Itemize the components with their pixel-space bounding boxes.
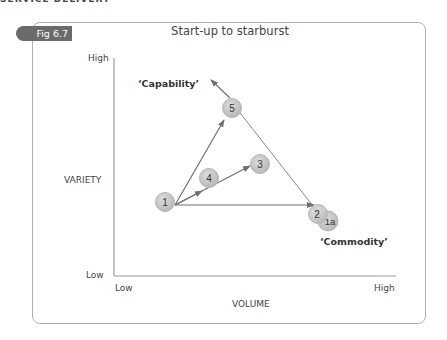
svg-text:4: 4 [206, 173, 212, 184]
y-axis-high-label: High [88, 53, 109, 63]
commodity-annotation: ‘Commodity’ [320, 236, 388, 247]
node-3: 3 [251, 155, 270, 174]
node-5: 5 [223, 99, 242, 118]
y-axis-title: VARIETY [64, 175, 101, 185]
frontier-line [230, 100, 320, 215]
arrow-5-to-capability [211, 80, 230, 98]
x-axis-title: VOLUME [232, 299, 270, 309]
y-axis-low-label: Low [86, 270, 104, 280]
svg-text:1: 1 [162, 197, 168, 208]
capability-annotation: ‘Capability’ [138, 78, 199, 89]
node-1: 1 [156, 193, 175, 212]
growth-arrows [175, 80, 320, 217]
node-4: 4 [200, 169, 219, 188]
node-2: 2 [309, 205, 328, 224]
x-axis-high-label: High [374, 283, 395, 293]
svg-text:3: 3 [257, 159, 263, 170]
x-axis-low-label: Low [115, 283, 133, 293]
svg-text:5: 5 [229, 103, 235, 114]
svg-text:2: 2 [314, 209, 320, 220]
